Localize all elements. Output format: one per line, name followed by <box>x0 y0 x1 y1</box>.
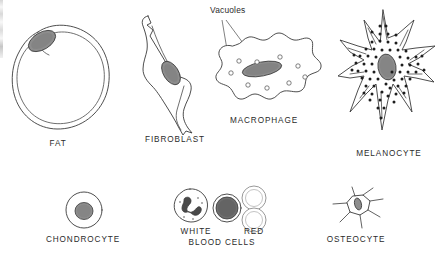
osteocyte-process <box>333 203 347 204</box>
fibroblast-figure <box>132 12 218 136</box>
osteocyte-process <box>370 199 383 201</box>
macrophage-figure <box>210 14 328 110</box>
white-blood-cell-1-membrane <box>174 189 207 222</box>
macrophage-vacuole <box>255 60 259 64</box>
fat-cell-figure <box>8 16 116 134</box>
wbc-granule <box>201 202 203 204</box>
wbc-granule <box>197 197 199 199</box>
macrophage-vacuole <box>278 55 282 59</box>
melanocyte-figure <box>336 8 440 144</box>
scan-edge-artifact <box>0 0 3 58</box>
cell-types-diagram: FAT FIBROBLAST Vacuoles <box>0 0 442 256</box>
blood-cells-label: BLOOD CELLS <box>189 237 256 248</box>
osteocyte-label: OSTEOCYTE <box>327 234 386 245</box>
red-blood-cells-label: RED <box>244 226 264 237</box>
wbc-granule <box>192 218 194 220</box>
macrophage-vacuole <box>246 83 250 87</box>
wbc-granule <box>179 201 181 203</box>
white-blood-cell-2-figure <box>211 192 243 224</box>
white-blood-cells-label: WHITE <box>181 226 212 237</box>
fat-cell-label: FAT <box>49 138 66 149</box>
macrophage-vacuole <box>229 71 233 75</box>
macrophage-vacuole <box>265 86 269 90</box>
osteocyte-process <box>368 210 380 217</box>
chondrocyte-label: CHONDROCYTE <box>46 234 120 245</box>
macrophage-vacuole <box>237 59 241 63</box>
wbc-granule <box>183 216 185 218</box>
fat-cell-membrane <box>12 25 109 129</box>
melanocyte-label: MELANOCYTE <box>356 148 421 159</box>
fibroblast-label: FIBROBLAST <box>145 134 205 145</box>
macrophage-vacuole <box>287 81 291 85</box>
macrophage-label: MACROPHAGE <box>230 115 298 126</box>
osteocyte-process <box>340 212 350 222</box>
osteocyte-figure <box>329 186 387 232</box>
osteocyte-process <box>352 187 355 196</box>
chondrocyte-figure <box>63 189 105 231</box>
white-blood-cell-2-nucleus-shading <box>218 199 236 217</box>
white-blood-cell-1-figure <box>173 188 209 224</box>
macrophage-vacuole <box>296 64 300 68</box>
chondrocyte-nucleus-shading <box>77 205 91 218</box>
osteocyte-process <box>363 188 373 195</box>
osteocyte-process <box>360 215 362 228</box>
macrophage-vacuole <box>303 75 307 79</box>
